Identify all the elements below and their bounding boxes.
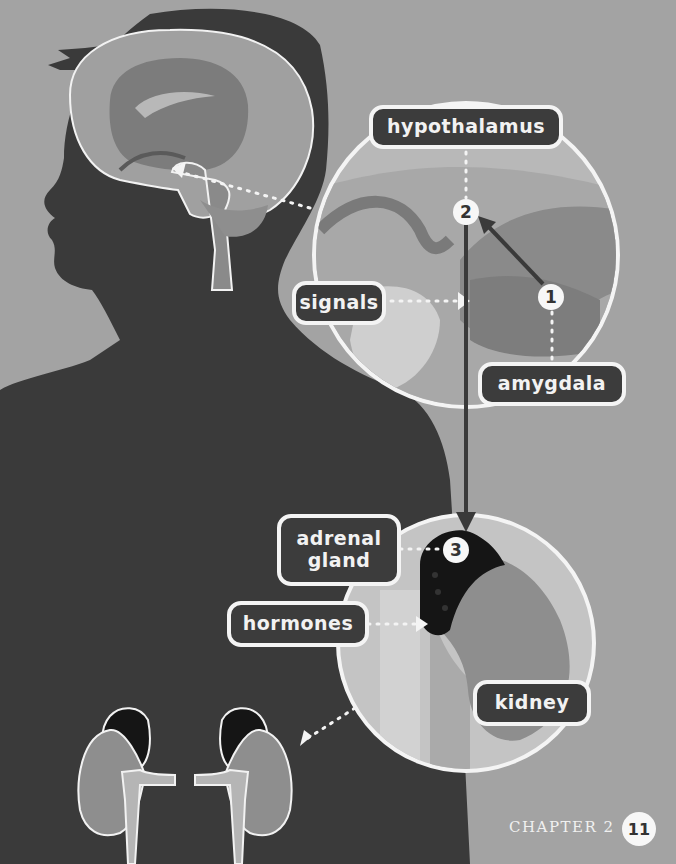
- chapter-label: CHAPTER 2: [509, 818, 615, 836]
- adrenal-line-1: adrenal: [296, 528, 381, 550]
- label-hypothalamus: hypothalamus: [369, 105, 563, 149]
- step-2-badge: 2: [453, 199, 479, 225]
- diagram-illustration: [0, 0, 676, 864]
- label-kidney: kidney: [473, 680, 591, 726]
- label-amygdala: amygdala: [478, 362, 626, 406]
- adrenal-line-2: gland: [308, 550, 371, 572]
- step-3-badge: 3: [443, 537, 469, 563]
- step-1-badge: 1: [538, 284, 564, 310]
- label-signals: signals: [292, 281, 386, 325]
- diagram-stage: 2 1 3 hypothalamus signals amygdala adre…: [0, 0, 676, 864]
- label-hormones: hormones: [227, 601, 369, 647]
- label-adrenal-gland: adrenal gland: [277, 514, 401, 586]
- page-number-badge: 11: [622, 812, 656, 846]
